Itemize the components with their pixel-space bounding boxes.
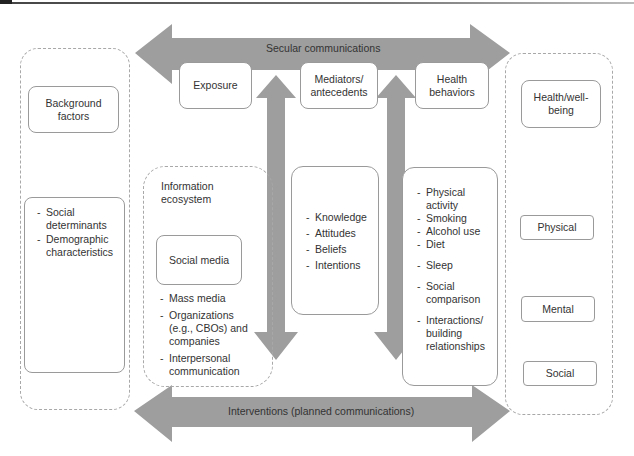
health-behaviors-list-box: Physical activity Smoking Alcohol use Di… (402, 167, 498, 386)
interventions-label: Interventions (planned communications) (228, 405, 414, 417)
background-factors-label: Background factors (29, 97, 118, 123)
health-behaviors-label: Health behaviors (424, 73, 480, 99)
background-factors-box: Background factors (28, 86, 119, 133)
information-ecosystem-list: Mass media Organizations (e.g., CBOs) an… (160, 292, 260, 378)
list-item: Sleep (417, 259, 493, 272)
social-box: Social (523, 361, 597, 386)
list-item: Organizations (e.g., CBOs) and companies (160, 309, 260, 348)
information-ecosystem-list-wrap: Mass media Organizations (e.g., CBOs) an… (160, 292, 260, 378)
list-item: Beliefs (306, 243, 378, 256)
background-factors-list-box: Social determinants Demographic characte… (24, 197, 125, 373)
list-item: Demographic characteristics (37, 233, 118, 259)
mediators-list-box: Knowledge Attitudes Beliefs Intentions (291, 166, 379, 315)
list-item: Interpersonal communication (160, 352, 260, 378)
health-wellbeing-box: Health/well-being (521, 80, 601, 128)
secular-communications-label: Secular communications (266, 42, 380, 54)
health-behaviors-box: Health behaviors (415, 62, 489, 109)
background-factors-list: Social determinants Demographic characte… (37, 206, 118, 259)
mental-box: Mental (521, 296, 595, 322)
social-media-label: Social media (169, 254, 229, 267)
mediators-label: Mediators/ antecedents (307, 73, 371, 99)
mediators-list: Knowledge Attitudes Beliefs Intentions (306, 211, 378, 272)
mental-label: Mental (542, 303, 574, 316)
list-item: Social comparison (417, 280, 493, 306)
list-item: Attitudes (306, 227, 378, 240)
list-item: Physical activity (417, 186, 493, 212)
mediators-box: Mediators/ antecedents (300, 62, 378, 109)
health-wellbeing-label: Health/well-being (528, 91, 594, 117)
list-item: Social determinants (37, 206, 118, 232)
health-behaviors-list: Physical activity Smoking Alcohol use Di… (417, 186, 493, 353)
information-ecosystem-title: Information ecosystem (161, 180, 261, 206)
social-media-box: Social media (156, 235, 242, 285)
list-item: Knowledge (306, 211, 378, 224)
physical-box: Physical (520, 215, 594, 240)
exposure-box: Exposure (179, 62, 252, 109)
list-item: Alcohol use (417, 225, 493, 238)
list-item: Interactions/ building relationships (417, 314, 493, 353)
exposure-label: Exposure (193, 79, 237, 92)
list-item: Intentions (306, 259, 378, 272)
social-label: Social (546, 367, 575, 380)
list-item: Diet (417, 238, 493, 251)
physical-label: Physical (537, 221, 576, 234)
list-item: Smoking (417, 212, 493, 225)
list-item: Mass media (160, 292, 260, 305)
